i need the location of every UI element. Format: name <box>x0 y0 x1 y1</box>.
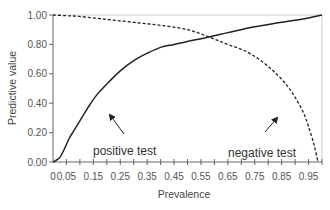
x-tick-label: 0.55 <box>191 171 211 182</box>
x-axis-title: Prevalence <box>158 188 211 200</box>
x-tick-label: 0.45 <box>164 171 184 182</box>
y-axis-ticks: 0.000.200.400.600.801.00 <box>28 10 53 168</box>
positive-test-arrow <box>110 115 124 134</box>
x-tick-label: 0.25 <box>111 171 131 182</box>
x-tick-label: 0.75 <box>245 171 265 182</box>
x-tick-label: 0 <box>50 171 56 182</box>
y-tick-label: 0.00 <box>28 157 48 168</box>
x-tick-label: 0.35 <box>137 171 157 182</box>
x-tick-label: 0.65 <box>218 171 238 182</box>
y-axis-title: Predictive value <box>6 51 18 125</box>
y-tick-label: 0.60 <box>28 68 48 79</box>
negative-test-curve <box>53 15 318 162</box>
negative-test-label: negative test <box>228 146 297 160</box>
x-tick-label: 0.95 <box>299 171 319 182</box>
positive-test-curve <box>53 15 322 162</box>
negative-test-arrow <box>265 118 277 132</box>
x-tick-label: 0.05 <box>57 171 77 182</box>
positive-test-label: positive test <box>93 144 157 158</box>
y-tick-label: 0.80 <box>28 39 48 50</box>
x-tick-label: 0.85 <box>272 171 292 182</box>
y-tick-label: 0.40 <box>28 98 48 109</box>
y-tick-label: 0.20 <box>28 127 48 138</box>
x-tick-label: 0.15 <box>84 171 104 182</box>
predictive-value-chart: 0.000.200.400.600.801.00 00.050.150.250.… <box>0 0 330 210</box>
y-tick-label: 1.00 <box>28 10 48 21</box>
